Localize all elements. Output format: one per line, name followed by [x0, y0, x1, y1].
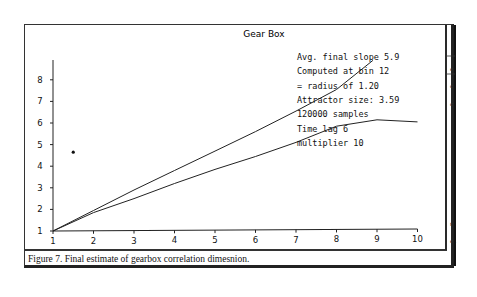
y-tick-label: 5	[37, 140, 42, 150]
annotation-line: Computed at bin 12	[297, 66, 389, 76]
annotation-line: = radius of 1.20	[297, 81, 379, 91]
side-mark: c	[450, 100, 453, 108]
x-tick-label: 1	[50, 236, 55, 246]
x-axis	[53, 229, 418, 231]
x-tick-label: 2	[91, 236, 96, 246]
y-tick-label: 4	[37, 161, 42, 171]
y-tick-label: 6	[37, 118, 42, 128]
annotation-line: multiplier 10	[297, 138, 364, 148]
side-mark: e1	[450, 237, 457, 245]
chart: Gear Box1234567891012345678Avg. final sl…	[0, 0, 477, 297]
x-tick-label: 3	[131, 236, 136, 246]
chart-title: Gear Box	[243, 29, 285, 39]
side-mark: e	[450, 65, 453, 73]
x-tick-label: 7	[293, 235, 298, 245]
annotation-line: Avg. final slope 5.9	[297, 52, 399, 62]
x-tick-label: 9	[374, 234, 379, 244]
y-tick-label: 1	[37, 226, 42, 236]
side-mark: c	[450, 82, 453, 90]
y-tick-label: 8	[37, 75, 42, 85]
x-tick-label: 5	[212, 235, 217, 245]
y-tick-label: 2	[37, 204, 42, 214]
y-tick-label: 7	[37, 96, 42, 106]
annotation-line: Attractor size: 3.59	[297, 95, 399, 105]
side-mark: t	[450, 220, 452, 228]
x-tick-label: 10	[412, 234, 423, 244]
figure-caption: Figure 7. Final estimate of gearbox corr…	[28, 254, 249, 264]
y-tick-label: 3	[37, 183, 42, 193]
lower-curve	[53, 120, 418, 231]
data-point	[72, 151, 75, 154]
x-tick-label: 6	[253, 235, 258, 245]
x-tick-label: 4	[172, 235, 177, 245]
x-tick-label: 8	[334, 234, 339, 244]
annotation-line: Time lag 6	[297, 124, 348, 134]
annotation-line: 120000 samples	[297, 109, 369, 119]
